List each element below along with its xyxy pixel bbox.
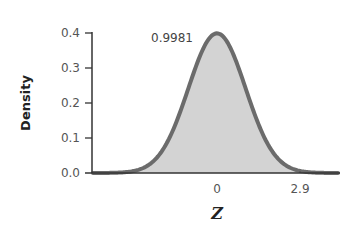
xtick-2.9: 2.9 bbox=[290, 182, 309, 196]
x-axis-label: Z bbox=[210, 204, 224, 223]
ytick-0.4: 0.4 bbox=[61, 26, 80, 40]
normal-density-chart: 0.4 0.3 0.2 0.1 0.0 0 2.9 0.9981 Density… bbox=[0, 0, 356, 228]
ytick-0.1: 0.1 bbox=[61, 131, 80, 145]
ytick-0.0: 0.0 bbox=[61, 166, 80, 180]
y-ticks: 0.4 0.3 0.2 0.1 0.0 bbox=[61, 26, 92, 180]
ytick-0.2: 0.2 bbox=[61, 96, 80, 110]
shaded-area bbox=[93, 33, 300, 173]
xtick-0: 0 bbox=[213, 182, 221, 196]
y-axis-label: Density bbox=[18, 75, 33, 131]
area-annotation: 0.9981 bbox=[151, 31, 193, 45]
ytick-0.3: 0.3 bbox=[61, 61, 80, 75]
